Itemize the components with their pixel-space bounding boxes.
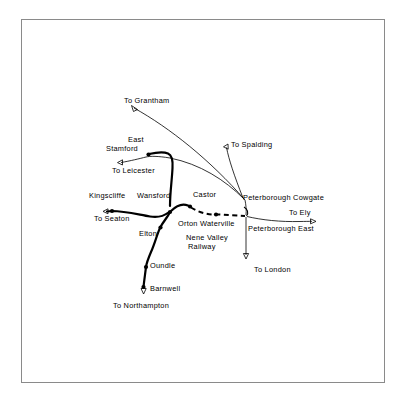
- label-oundle: Oundle: [150, 262, 175, 271]
- label-to-grantham: To Grantham: [124, 97, 169, 106]
- station-marker-stamford: [146, 152, 150, 156]
- station-marker-oundle: [144, 265, 148, 269]
- line-to-leicester: [118, 157, 147, 165]
- label-peterborough-east: Peterborough East: [248, 225, 314, 234]
- label-orton-waterville: Orton Waterville: [178, 220, 235, 229]
- label-kingscliffe: Kingscliffe: [89, 192, 125, 201]
- label-to-spalding: To Spalding: [231, 141, 272, 150]
- arrow-to-northampton: [141, 289, 146, 295]
- station-marker-barnwell: [141, 285, 145, 289]
- label-railway: Railway: [188, 243, 216, 252]
- station-marker-elton: [158, 225, 162, 229]
- station-marker-wansford: [168, 210, 172, 214]
- label-stamford: Stamford: [106, 145, 138, 154]
- label-barnwell: Barnwell: [150, 285, 180, 294]
- label-to-ely: To Ely: [289, 209, 311, 218]
- station-marker-orton-waterville: [214, 212, 218, 216]
- label-to-leicester: To Leicester: [112, 167, 155, 176]
- map-network-svg: [0, 0, 403, 403]
- label-to-seaton: To Seaton: [94, 215, 130, 224]
- line-to-spalding: [224, 144, 244, 198]
- label-wansford: Wansford: [137, 192, 170, 201]
- label-to-northampton: To Northampton: [113, 302, 169, 311]
- label-elton: Elton: [139, 230, 157, 239]
- line-to-ely: [247, 217, 316, 224]
- map-figure: To Grantham To Spalding East Stamford To…: [0, 0, 403, 403]
- label-castor: Castor: [193, 191, 216, 200]
- label-peterborough-cowgate: Peterborough Cowgate: [243, 194, 324, 203]
- line-wansford-castor: [171, 205, 188, 211]
- label-to-london: To London: [254, 266, 291, 275]
- line-wansford-barnwell: [144, 213, 170, 287]
- station-marker-kingscliffe: [110, 209, 114, 213]
- station-marker-castor: [188, 204, 192, 208]
